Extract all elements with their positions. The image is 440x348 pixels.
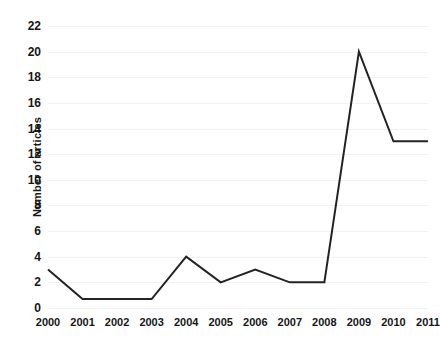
y-axis-tick-label: 2 <box>34 276 41 288</box>
y-axis-title-container: Number of articles <box>24 26 50 308</box>
y-axis-tick-label: 0 <box>34 302 41 314</box>
x-axis-tick-label: 2008 <box>312 317 336 328</box>
y-axis-tick-label: 22 <box>28 20 41 32</box>
x-axis-tick-label: 2001 <box>70 317 94 328</box>
x-axis-tick-label: 2002 <box>105 317 129 328</box>
series-line-number-of-articles <box>48 52 428 299</box>
y-axis-tick-label: 18 <box>28 71 41 83</box>
x-axis-tick-label: 2005 <box>208 317 232 328</box>
y-axis-tick-label: 6 <box>34 225 41 237</box>
x-axis-tick-label: 2009 <box>347 317 371 328</box>
y-axis-tick-label: 10 <box>28 174 41 186</box>
x-axis-tick-label: 2003 <box>139 317 163 328</box>
x-axis-tick-label: 2011 <box>416 317 440 328</box>
x-axis-tick-label: 2006 <box>243 317 267 328</box>
y-axis-tick-label: 12 <box>28 148 41 160</box>
x-axis-tick-label: 2007 <box>278 317 302 328</box>
y-axis-title: Number of articles <box>24 26 50 308</box>
x-axis-tick-label: 2000 <box>36 317 60 328</box>
y-axis-tick-label: 16 <box>28 97 41 109</box>
plot-area: 0246810121416182022 20002001200220032004… <box>48 26 428 308</box>
x-axis-tick-label: 2010 <box>381 317 405 328</box>
line-chart: Number of articles 0246810121416182022 2… <box>0 0 440 348</box>
series-layer <box>48 26 428 308</box>
gridline <box>48 308 428 309</box>
y-axis-tick-label: 8 <box>34 199 41 211</box>
x-axis-tick-label: 2004 <box>174 317 198 328</box>
y-axis-tick-label: 20 <box>28 46 41 58</box>
y-axis-tick-label: 14 <box>28 123 41 135</box>
y-axis-tick-label: 4 <box>34 251 41 263</box>
